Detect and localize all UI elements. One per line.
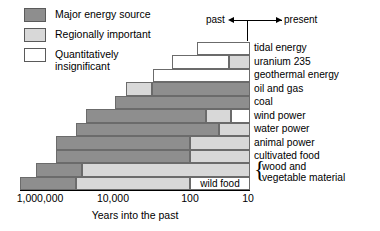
- present-label: present: [284, 14, 317, 26]
- bar-row: [20, 96, 250, 110]
- x-axis: Years into the past 1,000,00010,00010010: [0, 190, 380, 230]
- bar-segment: [76, 177, 190, 191]
- arrow-right-icon: [276, 17, 282, 23]
- present-vertical-tick: [247, 20, 248, 41]
- bar-segment: [197, 42, 250, 56]
- category-label: wood and vegetable material: [262, 161, 345, 183]
- category-label-column: tidal energyuranium 235geothermal energy…: [254, 41, 380, 196]
- legend-label-regional: Regionally important: [55, 28, 151, 41]
- bar-segment: [206, 109, 231, 123]
- bar-row: [20, 55, 250, 69]
- legend-swatch-major-icon: [24, 8, 46, 22]
- bar-segment: [152, 82, 250, 96]
- bar-segment: [219, 123, 250, 137]
- grouping-brace-icon: {: [254, 164, 265, 176]
- bar-row: [20, 69, 250, 83]
- bar-row: [20, 42, 250, 56]
- bar-segment: [172, 55, 229, 69]
- plot-area: wild food: [20, 41, 250, 190]
- category-label: coal: [254, 96, 273, 107]
- category-label: uranium 235: [254, 56, 311, 67]
- bar-segment: [82, 163, 250, 177]
- bar-row: wild food: [20, 177, 250, 191]
- past-label: past: [206, 14, 225, 26]
- bar-row: [20, 136, 250, 150]
- category-label: geothermal energy: [254, 69, 339, 80]
- bar-row: [20, 163, 250, 177]
- bar-segment: [56, 150, 190, 164]
- bar-segment: [76, 123, 219, 137]
- bar-segment: [190, 150, 250, 164]
- category-label: wind power: [254, 110, 306, 121]
- bar-row: [20, 109, 250, 123]
- energy-source-timeline-chart: Major energy source Regionally important…: [0, 0, 380, 231]
- x-axis-baseline: [20, 190, 250, 191]
- bar-segment: [86, 109, 206, 123]
- x-axis-tick-label: 10,000: [97, 192, 129, 204]
- bar-segment: [126, 82, 152, 96]
- bar-segment: [231, 109, 250, 123]
- bar-segment: [36, 163, 82, 177]
- bar-row: [20, 82, 250, 96]
- arrow-left-icon: [228, 17, 234, 23]
- bar-segment: [56, 136, 190, 150]
- legend-label-major: Major energy source: [55, 8, 151, 21]
- category-label: tidal energy: [254, 42, 307, 53]
- legend-item-major: Major energy source: [24, 8, 151, 22]
- bar-segment: [229, 55, 250, 69]
- legend-item-regional: Regionally important: [24, 28, 151, 42]
- bar-row: [20, 150, 250, 164]
- bar-segment-label: wild food: [191, 178, 249, 189]
- category-label: oil and gas: [254, 83, 303, 94]
- bar-segment: [190, 136, 250, 150]
- x-axis-tick-label: 100: [181, 192, 199, 204]
- bar-segment: [153, 69, 250, 83]
- bar-row: [20, 123, 250, 137]
- x-axis-title: Years into the past: [20, 209, 250, 221]
- direction-line: [233, 20, 282, 21]
- bar-segment: [20, 177, 76, 191]
- legend-swatch-regional-icon: [24, 28, 46, 42]
- category-label: water power: [254, 123, 310, 134]
- bar-segment: wild food: [190, 177, 250, 191]
- time-direction-indicator: past present: [206, 14, 326, 26]
- bar-segment: [115, 96, 250, 110]
- x-axis-tick-label: 1,000,000: [17, 192, 64, 204]
- category-label: animal power: [254, 137, 315, 148]
- x-axis-tick-label: 10: [242, 192, 254, 204]
